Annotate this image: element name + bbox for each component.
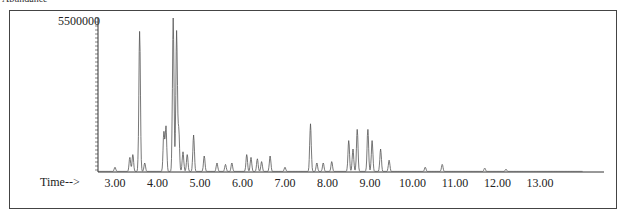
chromatogram-trace: [98, 18, 583, 171]
chromatogram-plot: [0, 0, 624, 216]
